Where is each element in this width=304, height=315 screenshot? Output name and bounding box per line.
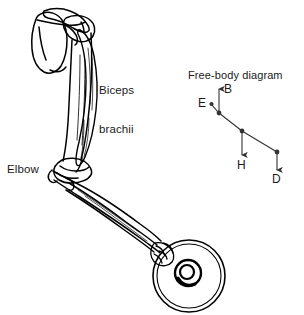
weight-plate-outer <box>153 240 225 312</box>
fbd-label-D: D <box>272 172 281 186</box>
figure-svg <box>0 0 304 315</box>
humerus-shading-1 <box>77 55 80 140</box>
biceps-label-line1: Biceps <box>99 84 134 97</box>
elbow-label: Elbow <box>7 163 39 176</box>
biceps-label: Biceps brachii <box>99 58 134 162</box>
weight-plate-hole <box>180 265 194 279</box>
humerus-condyle-detail-1 <box>60 166 89 171</box>
biceps-fibre-4 <box>84 118 89 157</box>
biceps-label-line2: brachii <box>99 123 134 136</box>
fbd-point-E <box>209 102 213 106</box>
biceps-fibre-2 <box>92 58 93 110</box>
fbd-forearm-segment <box>211 104 277 152</box>
fbd-label-H: H <box>237 158 246 172</box>
hand-group <box>151 243 174 266</box>
scapula-inner-line <box>39 27 46 60</box>
figure-canvas: Biceps brachii Elbow Free-body diagram B… <box>0 0 304 315</box>
weight-plate-group <box>153 240 225 312</box>
forearm-shading-1 <box>85 196 147 241</box>
scapula-spine <box>37 20 85 25</box>
radius-lower <box>66 190 154 252</box>
fbd-label-E: E <box>198 96 206 110</box>
forearm-shading-2 <box>78 190 139 232</box>
weight-plate-rim <box>157 244 221 308</box>
ulna-upper <box>53 171 161 241</box>
weight-plate-hub <box>175 260 201 286</box>
biceps-fibre-1 <box>88 48 90 104</box>
fbd-label-B: B <box>224 82 232 96</box>
fbd-title: Free-body diagram <box>188 69 283 82</box>
